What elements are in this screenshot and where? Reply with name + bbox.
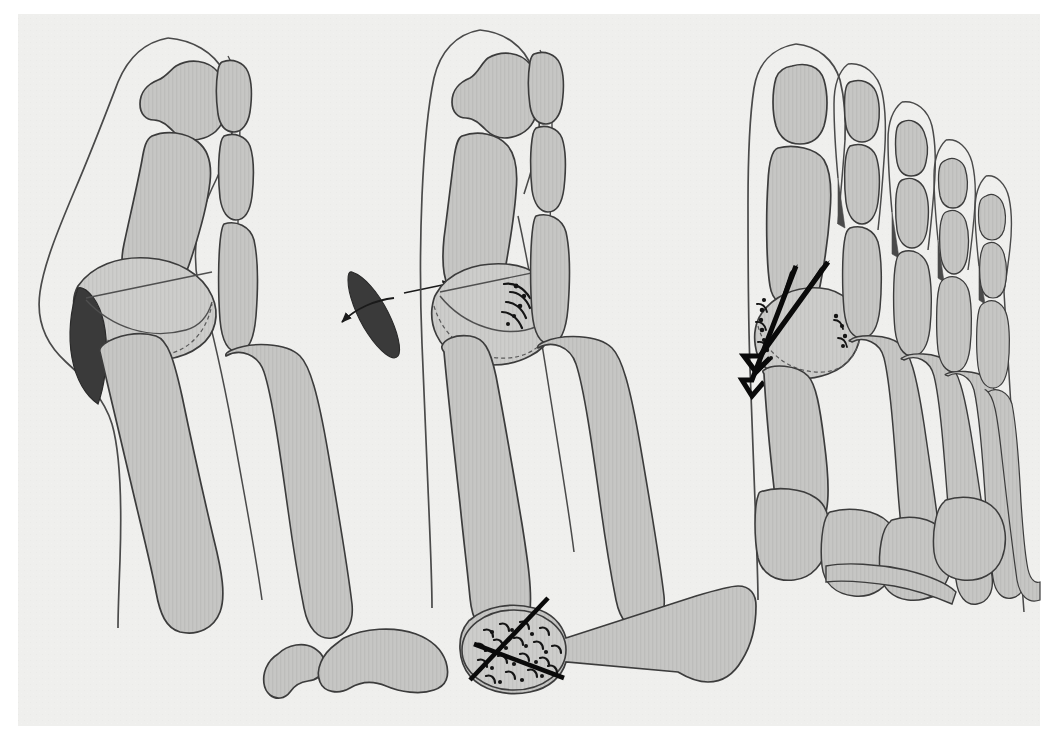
figure-canvas (0, 0, 1051, 744)
bone-hallux-distal-phalanx-c (773, 65, 827, 144)
bone-toe4-middle-phalanx-c (940, 210, 969, 274)
bone-toe2-proximal-phalanx-c (843, 227, 882, 338)
bone-toe5-proximal-phalanx-c (977, 301, 1010, 388)
bone-second-distal-phalanx-a (217, 60, 252, 132)
bone-toe4-distal-phalanx-c (939, 158, 968, 208)
bone-toe5-distal-phalanx-c (979, 194, 1006, 240)
bone-toe2-distal-phalanx-c (845, 80, 880, 142)
bone-hallux-proximal-phalanx-c (767, 147, 831, 309)
bone-second-middle-phalanx-a (219, 134, 254, 220)
bone-toe3-proximal-phalanx-c (894, 251, 932, 356)
bone-toe3-middle-phalanx-c (896, 178, 929, 248)
illustration-root: Hallux valgus (bunion) correction: media… (0, 0, 1051, 744)
bone-second-distal-phalanx-b (529, 52, 564, 124)
bone-second-proximal-phalanx-a (219, 223, 258, 352)
bone-toe5-middle-phalanx-c (980, 242, 1007, 298)
bone-toe4-proximal-phalanx-c (937, 277, 972, 372)
bone-second-proximal-phalanx-b (531, 215, 570, 344)
bone-second-middle-phalanx-b (531, 126, 566, 212)
bone-toe2-middle-phalanx-c (845, 144, 880, 224)
bone-toe3-distal-phalanx-c (896, 120, 928, 176)
bone-medial-cuneiform-c (755, 489, 830, 581)
bone-cuboid-c (933, 497, 1005, 580)
